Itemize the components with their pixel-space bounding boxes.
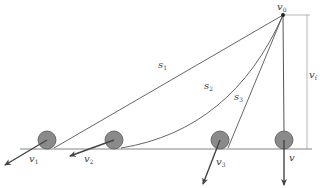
label-velocity-v2: v2 (84, 154, 93, 165)
label-s3: s3 (234, 92, 243, 103)
velocity-arrow-1 (5, 140, 47, 165)
diagram-svg (0, 0, 320, 188)
label-velocity-v: v (289, 153, 295, 164)
path-s1 (54, 15, 283, 148)
diagram-canvas: v0 s1 s2 s3 vf v1 v2 v3 v (0, 0, 320, 188)
path-s2 (121, 15, 283, 148)
path-vertical (283, 15, 284, 131)
label-s1: s1 (158, 60, 167, 71)
label-apex-v0: v0 (277, 2, 286, 13)
label-velocity-v1: v1 (29, 154, 38, 165)
label-s2: s2 (204, 81, 213, 92)
path-s3 (228, 15, 283, 148)
apex-point (281, 13, 285, 17)
label-velocity-v3: v3 (216, 157, 225, 168)
label-height-vf: vf (309, 70, 317, 81)
